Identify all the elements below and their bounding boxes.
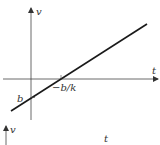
root-label: −b/k xyxy=(52,82,76,93)
bottom-graph: v t xyxy=(6,124,109,145)
bottom-x-axis-label: t xyxy=(104,133,109,144)
x-axis-label: t xyxy=(152,65,157,76)
diagram-canvas: v t −b/k b v t xyxy=(0,0,160,145)
y-axis-label: v xyxy=(36,6,42,17)
top-graph: v t −b/k b xyxy=(3,6,158,120)
intercept-label: b xyxy=(17,93,23,104)
bottom-y-axis-label: v xyxy=(10,124,16,135)
